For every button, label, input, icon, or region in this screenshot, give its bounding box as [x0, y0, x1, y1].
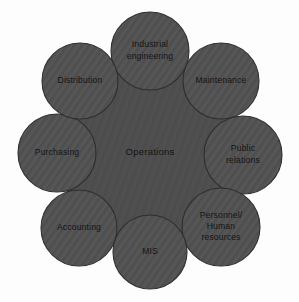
node-label-mis: MIS: [142, 246, 158, 256]
node-label-line: Distribution: [58, 75, 103, 85]
node-label-line: Personnel/: [200, 210, 243, 220]
node-label-line: relations: [226, 155, 260, 165]
node-label-industrial-engineering: Industrialengineering: [127, 40, 174, 61]
node-label-line: resources: [201, 233, 240, 243]
operations-relationships-diagram: Operations IndustrialengineeringMaintena…: [0, 0, 299, 302]
function-node-mis[interactable]: MIS: [113, 215, 187, 289]
function-node-personnel-human-resources[interactable]: Personnel/Humanresources: [182, 188, 260, 266]
node-label-purchasing: Purchasing: [35, 147, 80, 157]
node-label-line: Human: [207, 221, 236, 231]
diagram-canvas: Operations IndustrialengineeringMaintena…: [0, 0, 299, 302]
node-label-line: Public: [231, 144, 256, 154]
node-label-line: Industrial: [132, 40, 168, 50]
function-node-maintenance[interactable]: Maintenance: [183, 43, 259, 119]
node-label-distribution: Distribution: [58, 75, 103, 85]
hub-label-operations: Operations: [126, 146, 175, 157]
node-label-line: engineering: [127, 51, 174, 61]
function-node-purchasing[interactable]: Purchasing: [18, 114, 96, 192]
function-node-distribution[interactable]: Distribution: [42, 43, 118, 119]
node-label-public-relations: Publicrelations: [226, 144, 260, 165]
function-node-industrial-engineering[interactable]: Industrialengineering: [111, 12, 189, 90]
node-label-line: Maintenance: [196, 75, 247, 85]
node-label-maintenance: Maintenance: [196, 75, 247, 85]
function-node-accounting[interactable]: Accounting: [41, 190, 117, 266]
node-label-line: Accounting: [57, 222, 101, 232]
node-label-line: Purchasing: [35, 147, 80, 157]
function-node-public-relations[interactable]: Publicrelations: [204, 116, 282, 194]
node-label-line: MIS: [142, 246, 158, 256]
node-label-accounting: Accounting: [57, 222, 101, 232]
